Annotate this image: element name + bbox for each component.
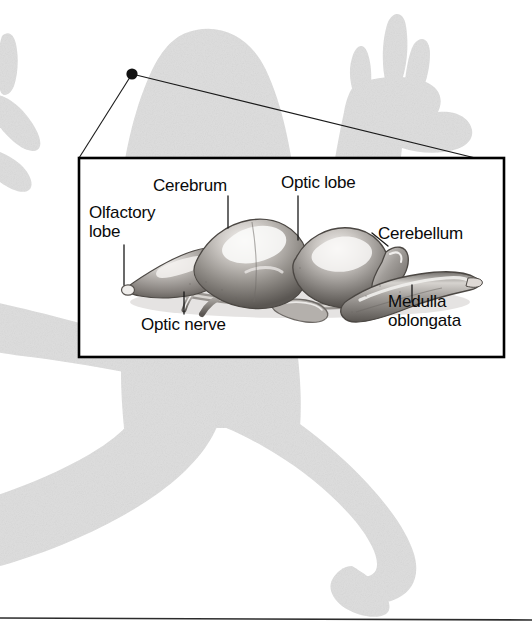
label-cerebrum: Cerebrum xyxy=(153,176,227,195)
label-medulla-oblongata: Medulla oblongata xyxy=(388,292,461,330)
label-cerebellum: Cerebellum xyxy=(378,224,463,243)
label-optic-lobe: Optic lobe xyxy=(281,173,356,192)
label-olfactory-lobe: Olfactory lobe xyxy=(89,203,155,241)
figure-canvas: Olfactory lobe Cerebrum Optic lobe Cereb… xyxy=(0,0,532,634)
bottom-divider xyxy=(0,618,532,620)
label-optic-nerve: Optic nerve xyxy=(141,315,226,334)
callout-dot xyxy=(126,68,137,79)
